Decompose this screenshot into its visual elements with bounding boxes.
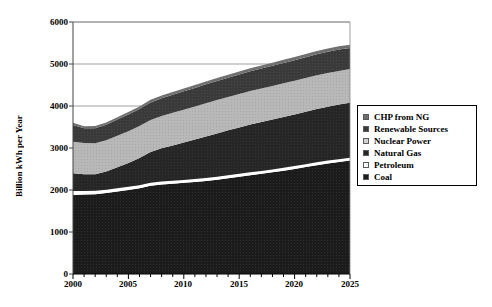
legend-item-petroleum[interactable]: Petroleum — [363, 159, 472, 171]
legend-label-petroleum: Petroleum — [374, 161, 414, 170]
legend-item-natural-gas[interactable]: Natural Gas — [363, 147, 472, 159]
legend-swatch-chp-from-ng — [363, 114, 369, 120]
legend-label-renewable-sources: Renewable Sources — [374, 125, 448, 134]
legend-swatch-renewable-sources — [363, 126, 369, 132]
legend-swatch-nuclear-power — [363, 138, 369, 144]
legend-item-renewable-sources[interactable]: Renewable Sources — [363, 123, 472, 135]
legend-item-coal[interactable]: Coal — [363, 171, 472, 183]
area-bands — [73, 45, 350, 274]
legend-swatch-petroleum — [363, 162, 369, 168]
legend-swatch-natural-gas — [363, 150, 369, 156]
legend-label-coal: Coal — [374, 173, 392, 182]
legend-item-chp-from-ng[interactable]: CHP from NG — [363, 111, 472, 123]
legend-label-chp-from-ng: CHP from NG — [374, 113, 429, 122]
legend-label-nuclear-power: Nuclear Power — [374, 137, 431, 146]
stacked-area-chart-figure: Billion kWh per Year 6000 5000 4000 3000… — [0, 0, 492, 307]
legend-swatch-coal — [363, 174, 369, 180]
legend-item-nuclear-power[interactable]: Nuclear Power — [363, 135, 472, 147]
chart-legend: CHP from NG Renewable Sources Nuclear Po… — [357, 105, 477, 186]
legend-label-natural-gas: Natural Gas — [374, 149, 421, 158]
